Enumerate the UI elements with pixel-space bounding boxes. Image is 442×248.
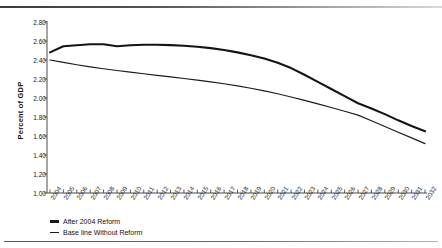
x-axis-tick: 2011: [142, 185, 155, 200]
x-axis-tick: 2024: [316, 185, 329, 201]
legend-label: Base line Without Reform: [63, 229, 142, 236]
legend-line-swatch: [50, 232, 59, 234]
x-axis-tick: 2015: [196, 185, 209, 201]
x-axis-tick: 2005: [62, 185, 75, 201]
chart-figure: Percent of GDP 2.802.602.402.202.001.801…: [0, 0, 442, 248]
x-axis-tick-labels: 2004200520062007200820092010201120122013…: [0, 0, 442, 248]
x-axis-tick: 2019: [249, 185, 262, 201]
x-axis-tick: 2022: [290, 185, 303, 201]
x-axis-tick: 2025: [330, 185, 343, 201]
legend-label: After 2004 Reform: [63, 218, 120, 225]
x-axis-tick: 2004: [49, 185, 62, 201]
x-axis-tick: 2017: [223, 185, 236, 201]
x-axis-tick: 2012: [156, 185, 169, 201]
x-axis-tick: 2030: [397, 185, 410, 201]
x-axis-tick: 2013: [169, 185, 182, 201]
x-axis-tick: 2008: [102, 185, 115, 201]
legend-item: Base line Without Reform: [50, 227, 142, 238]
x-axis-tick: 2018: [236, 185, 249, 201]
legend-line-swatch: [50, 220, 59, 222]
x-axis-tick: 2016: [209, 185, 222, 201]
x-axis-tick: 2027: [357, 185, 370, 201]
x-axis-tick: 2007: [89, 185, 102, 201]
x-axis-tick: 2006: [75, 185, 88, 201]
x-axis-tick: 2021: [276, 185, 289, 201]
x-axis-tick: 2032: [424, 185, 437, 201]
x-axis-tick: 2014: [182, 185, 195, 201]
x-axis-tick: 2009: [115, 185, 128, 201]
chart-legend: After 2004 ReformBase line Without Refor…: [50, 216, 142, 238]
x-axis-tick: 2020: [263, 185, 276, 201]
x-axis-tick: 2026: [343, 185, 356, 201]
x-axis-tick: 2029: [383, 185, 396, 201]
x-axis-tick: 2010: [129, 185, 142, 201]
x-axis-tick: 2023: [303, 185, 316, 201]
x-axis-tick: 2028: [370, 185, 383, 201]
x-axis-tick: 2031: [410, 185, 423, 201]
legend-item: After 2004 Reform: [50, 216, 142, 227]
